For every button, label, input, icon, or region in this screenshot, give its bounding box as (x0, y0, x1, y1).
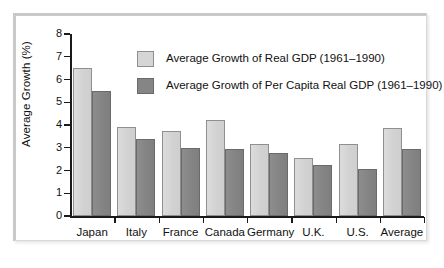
bar (358, 169, 377, 216)
x-axis-tick (114, 217, 115, 223)
x-axis-tick (203, 217, 204, 223)
bar (339, 144, 358, 216)
bar (206, 120, 225, 216)
bar (383, 128, 402, 216)
bar (117, 127, 136, 216)
y-axis-tick (64, 102, 70, 103)
bar (250, 144, 269, 216)
category-label: Italy (114, 226, 158, 238)
category-label: Average (380, 226, 424, 238)
legend-swatch-icon (137, 51, 154, 67)
y-axis-tick (64, 170, 70, 171)
y-axis-tick (64, 56, 70, 57)
legend-label: Average Growth of Per Capita Real GDP (1… (166, 80, 442, 92)
category-label: U.K. (291, 226, 335, 238)
bar (269, 153, 288, 216)
legend-item: Average Growth of Real GDP (1961–1990) (137, 51, 385, 67)
y-axis-tick-label: 2 (40, 165, 62, 176)
bar (162, 131, 181, 216)
x-axis-tick (291, 217, 292, 223)
y-axis-tick-label: 4 (40, 119, 62, 130)
x-axis-tick (336, 217, 337, 223)
y-axis-tick-label: 0 (40, 210, 62, 221)
y-axis-tick (64, 33, 70, 34)
category-label: Japan (70, 226, 114, 238)
y-axis-tick-label: 8 (40, 28, 62, 39)
x-axis-tick (247, 217, 248, 223)
legend-swatch-icon (137, 78, 154, 94)
legend-label: Average Growth of Real GDP (1961–1990) (166, 53, 385, 65)
bar (225, 149, 244, 216)
y-axis-line (70, 34, 72, 217)
x-axis-tick (380, 217, 381, 223)
y-axis-tick (64, 124, 70, 125)
x-axis-tick (159, 217, 160, 223)
plot-area: Average Growth (%) 876543210 JapanItalyF… (0, 0, 444, 268)
bar (136, 139, 155, 216)
y-axis-tick (64, 193, 70, 194)
legend-item: Average Growth of Per Capita Real GDP (1… (137, 78, 442, 94)
bar (92, 91, 111, 216)
bar (294, 158, 313, 216)
y-axis-tick (64, 147, 70, 148)
y-axis-tick-label: 1 (40, 187, 62, 198)
chart-figure: Average Growth (%) 876543210 JapanItalyF… (0, 0, 444, 268)
bar (73, 68, 92, 216)
bar (402, 149, 421, 216)
y-axis-tick (64, 79, 70, 80)
category-label: France (159, 226, 203, 238)
y-axis-tick-label: 5 (40, 96, 62, 107)
y-axis-tick (64, 215, 70, 216)
category-label: U.S. (336, 226, 380, 238)
y-axis-tick-label: 3 (40, 142, 62, 153)
bar (313, 165, 332, 216)
y-axis-tick-label: 7 (40, 51, 62, 62)
category-label: Canada (203, 226, 247, 238)
x-axis-tick (424, 217, 425, 223)
y-axis-title: Average Growth (%) (20, 24, 32, 164)
y-axis-tick-label: 6 (40, 74, 62, 85)
category-label: Germany (247, 226, 291, 238)
bar (181, 148, 200, 216)
